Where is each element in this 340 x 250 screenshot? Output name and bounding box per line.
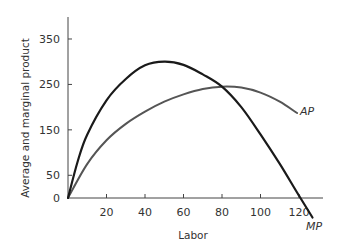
x-tick-label: 100 [250,206,271,219]
tick-marks: 20406080100120050150250350 [39,33,310,219]
ap-curve [68,87,297,198]
y-tick-label: 0 [53,192,60,205]
x-tick-label: 80 [215,206,229,219]
y-axis-title: Average and marginal product [19,38,31,198]
curves [68,62,313,218]
ap-curve-label: AP [299,105,315,118]
x-tick-label: 40 [138,206,152,219]
mp-curve [68,62,313,218]
x-axis-title: Labor [178,229,208,241]
y-tick-label: 250 [39,78,60,91]
x-tick-label: 60 [177,206,191,219]
x-tick-label: 20 [100,206,114,219]
y-tick-label: 150 [39,124,60,137]
chart: 20406080100120050150250350 Labor Average… [0,0,340,250]
y-tick-label: 50 [46,169,60,182]
mp-curve-label: MP [306,220,322,233]
y-tick-label: 350 [39,33,60,46]
